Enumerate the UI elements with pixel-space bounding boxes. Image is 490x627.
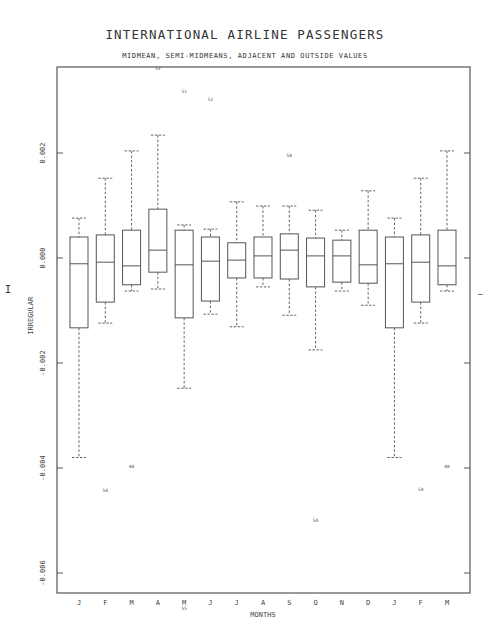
- outside-value-marker: 54: [418, 487, 424, 492]
- box-semi-midmeans: [333, 240, 351, 282]
- x-tick-label: S: [287, 599, 291, 607]
- y-tick-label: -0.002: [39, 350, 47, 375]
- left-margin-mark: I: [5, 284, 11, 295]
- outside-value-marker: 48: [129, 464, 135, 469]
- box-semi-midmeans: [175, 230, 193, 318]
- box-plot-chart: 0.0020.000-0.002-0.004-0.006IRREGULARJFM…: [0, 0, 490, 627]
- x-tick-label: M: [445, 599, 449, 607]
- x-axis-label: MONTHS: [250, 611, 275, 619]
- y-tick-label: -0.006: [39, 560, 47, 585]
- outside-value-marker: 48: [444, 464, 450, 469]
- x-tick-label: A: [156, 599, 161, 607]
- box-semi-midmeans: [149, 209, 167, 272]
- box-semi-midmeans: [438, 230, 456, 285]
- outside-value-marker: 50: [313, 518, 319, 523]
- x-tick-label: A: [261, 599, 266, 607]
- outside-value-marker: 55: [181, 606, 187, 611]
- box-semi-midmeans: [359, 230, 377, 283]
- box-semi-midmeans: [307, 238, 325, 287]
- outside-value-marker: 54: [103, 488, 109, 493]
- x-tick-label: O: [313, 599, 317, 607]
- x-tick-label: D: [366, 599, 370, 607]
- box-semi-midmeans: [280, 234, 298, 279]
- y-tick-label: 0.000: [39, 247, 47, 268]
- box-semi-midmeans: [201, 237, 219, 301]
- x-tick-label: J: [208, 599, 212, 607]
- box-semi-midmeans: [385, 237, 403, 328]
- box-semi-midmeans: [412, 235, 430, 302]
- box-semi-midmeans: [96, 235, 114, 302]
- outside-value-marker: 52: [208, 97, 214, 102]
- box-semi-midmeans: [70, 237, 88, 328]
- x-tick-label: J: [77, 599, 81, 607]
- y-axis-label: IRREGULAR: [27, 296, 35, 335]
- x-tick-label: F: [419, 599, 423, 607]
- outside-value-marker: 53: [155, 66, 161, 71]
- box-semi-midmeans: [254, 237, 272, 278]
- x-tick-label: J: [392, 599, 396, 607]
- plot-frame: [57, 67, 470, 593]
- x-tick-label: J: [235, 599, 239, 607]
- x-tick-label: F: [103, 599, 107, 607]
- outside-value-marker: 51: [181, 89, 187, 94]
- x-tick-label: N: [340, 599, 344, 607]
- right-margin-mark: —: [478, 290, 483, 299]
- outside-value-marker: 58: [287, 153, 293, 158]
- y-tick-label: -0.004: [39, 455, 47, 480]
- box-semi-midmeans: [123, 230, 141, 285]
- x-tick-label: M: [129, 599, 133, 607]
- y-tick-label: 0.002: [39, 142, 47, 163]
